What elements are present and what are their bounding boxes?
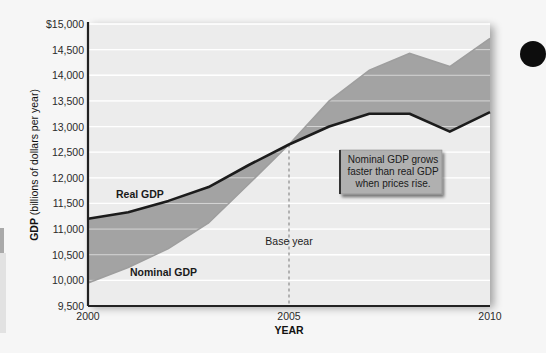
y-tick-label: $15,000 [46,18,84,30]
annotation-line-3: when prices rise. [354,178,430,189]
nominal-gdp-label: Nominal GDP [130,266,197,278]
y-tick-label: 10,500 [52,249,84,261]
annotation-line-2: faster than real GDP [347,166,438,177]
x-tick-label: 2005 [277,310,301,322]
y-tick-labels: 9,50010,00010,50011,00011,50012,00012,50… [46,18,84,312]
x-axis-title: YEAR [274,324,304,336]
x-tick-labels: 200020052010 [76,310,502,322]
base-year-label: Base year [265,235,313,247]
y-axis-title: GDP (billions of dollars per year) [28,89,40,241]
y-tick-label: 11,000 [53,223,84,235]
real-gdp-label: Real GDP [116,188,164,200]
y-axis-title-unit: (billions of dollars per year) [28,89,40,218]
annotation-line-1: Nominal GDP grows [348,154,438,165]
x-tick-label: 2010 [478,310,502,322]
annotation-box: Nominal GDP grows faster than real GDP w… [340,150,442,194]
section-marker-dot [520,41,546,67]
y-tick-label: 11,500 [53,197,84,209]
y-tick-label: 12,000 [52,172,84,184]
x-tick-label: 2000 [76,310,100,322]
y-tick-label: 14,500 [52,44,84,56]
y-tick-label: 14,000 [52,69,84,81]
y-tick-label: 13,000 [52,121,84,133]
y-axis-title-bold: GDP [28,218,40,241]
y-tick-label: 10,000 [52,274,84,286]
y-tick-label: 12,500 [52,146,84,158]
y-tick-label: 13,500 [52,95,84,107]
